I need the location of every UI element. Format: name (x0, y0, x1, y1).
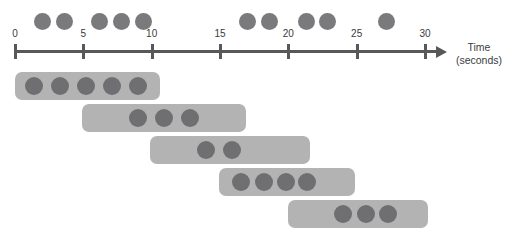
event-dot (113, 13, 130, 30)
time-axis-line (14, 50, 437, 53)
window-dot (103, 77, 121, 95)
axis-tick-label-15: 15 (200, 28, 240, 39)
window-dot (77, 77, 95, 95)
event-dot (261, 13, 278, 30)
axis-tick-label-5: 5 (63, 28, 103, 39)
window-dot (277, 173, 295, 191)
axis-tick (287, 44, 290, 59)
axis-tick-label-0: 0 (0, 28, 35, 39)
axis-tick (14, 44, 17, 59)
axis-tick (219, 44, 222, 59)
axis-tick (151, 44, 154, 59)
window-dot (334, 205, 352, 223)
event-dot (56, 13, 73, 30)
axis-tick-label-30: 30 (405, 28, 445, 39)
timeline-figure: 051015202530Time(seconds) (0, 0, 516, 238)
window-dot (155, 109, 173, 127)
axis-title-line-2: (seconds) (444, 54, 514, 67)
axis-title: Time(seconds) (444, 41, 514, 67)
event-dot (135, 13, 152, 30)
window-dot (379, 205, 397, 223)
axis-title-line-1: Time (444, 41, 514, 54)
window-dot (51, 77, 69, 95)
window-dot (25, 77, 43, 95)
window-dot (129, 109, 147, 127)
axis-tick-label-20: 20 (268, 28, 308, 39)
event-dot (378, 13, 395, 30)
event-dot (34, 13, 51, 30)
window-dot (232, 173, 250, 191)
event-dot (298, 13, 315, 30)
event-dot (319, 13, 336, 30)
event-dot (91, 13, 108, 30)
axis-tick (82, 44, 85, 59)
axis-tick (356, 44, 359, 59)
window-dot (255, 173, 273, 191)
axis-tick-label-10: 10 (132, 28, 172, 39)
window-dot (181, 109, 199, 127)
event-dot (239, 13, 256, 30)
axis-tick (424, 44, 427, 59)
axis-tick-label-25: 25 (337, 28, 377, 39)
window-dot (129, 77, 147, 95)
